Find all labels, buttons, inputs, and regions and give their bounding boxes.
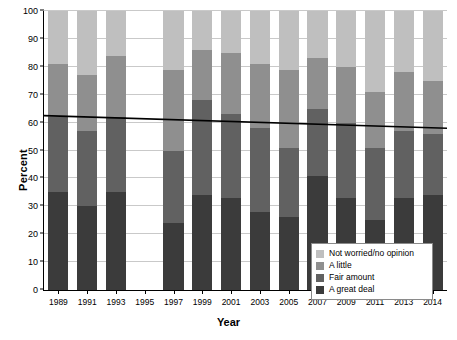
y-tick-mark <box>40 10 44 11</box>
bar-segment[interactable] <box>307 58 327 108</box>
bar-group[interactable] <box>163 11 183 290</box>
bar-group[interactable] <box>48 11 68 290</box>
bar-group[interactable] <box>106 11 126 290</box>
gridline <box>44 205 447 206</box>
x-tick-mark <box>202 290 203 294</box>
bar-group[interactable] <box>279 11 299 290</box>
bar-segment[interactable] <box>221 198 241 290</box>
y-tick-mark <box>40 65 44 66</box>
bar-segment[interactable] <box>48 11 68 64</box>
x-tick-mark <box>174 290 175 294</box>
bar-segment[interactable] <box>192 11 212 50</box>
bar-group[interactable] <box>250 11 270 290</box>
y-tick-label: 90 <box>28 34 38 44</box>
bar-segment[interactable] <box>221 11 241 53</box>
bar-segment[interactable] <box>365 92 385 148</box>
bar-segment[interactable] <box>279 70 299 148</box>
legend-swatch-icon <box>316 274 324 282</box>
bar-segment[interactable] <box>279 11 299 70</box>
legend-item[interactable]: Not worried/no opinion <box>316 248 428 259</box>
x-tick-mark <box>145 290 146 294</box>
bar-segment[interactable] <box>163 70 183 151</box>
bar-segment[interactable] <box>250 212 270 290</box>
x-tick-label: 1991 <box>78 297 97 307</box>
bar-segment[interactable] <box>250 128 270 212</box>
bar-segment[interactable] <box>163 11 183 70</box>
x-tick-label: 1999 <box>193 297 212 307</box>
x-tick-label: 1993 <box>106 297 125 307</box>
bar-segment[interactable] <box>163 151 183 224</box>
bar-group[interactable] <box>77 11 97 290</box>
bar-segment[interactable] <box>307 109 327 176</box>
bar-segment[interactable] <box>221 114 241 198</box>
bar-segment[interactable] <box>279 217 299 290</box>
bar-segment[interactable] <box>106 192 126 290</box>
y-tick-mark <box>40 205 44 206</box>
bar-segment[interactable] <box>250 64 270 128</box>
legend-item[interactable]: A great deal <box>316 284 428 295</box>
x-tick-mark <box>260 290 261 294</box>
x-tick-mark <box>58 290 59 294</box>
legend-item-label: A little <box>329 261 352 270</box>
y-tick-label: 100 <box>23 6 38 16</box>
bar-segment[interactable] <box>163 223 183 290</box>
bar-segment[interactable] <box>365 148 385 221</box>
y-tick-mark <box>40 121 44 122</box>
x-tick-label: 2001 <box>222 297 241 307</box>
x-tick-mark <box>289 290 290 294</box>
bar-segment[interactable] <box>192 50 212 100</box>
gridline <box>44 177 447 178</box>
bar-segment[interactable] <box>279 148 299 218</box>
gridline <box>44 38 447 39</box>
bar-segment[interactable] <box>48 192 68 290</box>
bar-segment[interactable] <box>77 206 97 290</box>
bar-segment[interactable] <box>365 11 385 92</box>
legend-item[interactable]: Fair amount <box>316 272 428 283</box>
gridline <box>44 150 447 151</box>
chart-legend: Not worried/no opinionA littleFair amoun… <box>311 243 433 300</box>
bar-segment[interactable] <box>307 11 327 58</box>
bar-group[interactable] <box>221 11 241 290</box>
y-tick-mark <box>40 149 44 150</box>
bar-segment[interactable] <box>106 117 126 192</box>
bar-segment[interactable] <box>394 11 414 72</box>
bar-segment[interactable] <box>423 81 443 134</box>
bar-segment[interactable] <box>106 56 126 117</box>
bar-segment[interactable] <box>48 117 68 192</box>
bar-segment[interactable] <box>192 100 212 195</box>
bar-segment[interactable] <box>336 11 356 67</box>
legend-swatch-icon <box>316 262 324 270</box>
y-tick-label: 0 <box>33 285 38 295</box>
bar-segment[interactable] <box>106 11 126 56</box>
gridline <box>44 10 447 11</box>
x-tick-mark <box>231 290 232 294</box>
legend-item[interactable]: A little <box>316 260 428 271</box>
bar-segment[interactable] <box>336 67 356 123</box>
bar-group[interactable] <box>192 11 212 290</box>
bar-segment[interactable] <box>77 11 97 75</box>
bar-segment[interactable] <box>336 123 356 198</box>
y-tick-label: 60 <box>28 118 38 128</box>
bar-segment[interactable] <box>250 11 270 64</box>
legend-swatch-icon <box>316 286 324 294</box>
x-tick-label: 1989 <box>49 297 68 307</box>
x-tick-label: 1997 <box>164 297 183 307</box>
y-tick-label: 10 <box>28 257 38 267</box>
y-tick-mark <box>40 289 44 290</box>
bar-segment[interactable] <box>423 134 443 195</box>
bar-segment[interactable] <box>221 53 241 114</box>
bar-segment[interactable] <box>77 131 97 206</box>
bar-segment[interactable] <box>77 75 97 131</box>
y-tick-label: 30 <box>28 201 38 211</box>
bar-segment[interactable] <box>423 11 443 81</box>
gridline <box>44 122 447 123</box>
y-tick-mark <box>40 261 44 262</box>
bar-segment[interactable] <box>192 195 212 290</box>
bar-segment[interactable] <box>48 64 68 117</box>
bar-segment[interactable] <box>394 72 414 131</box>
gridline <box>44 66 447 67</box>
legend-swatch-icon <box>316 250 324 258</box>
y-tick-label: 40 <box>28 173 38 183</box>
bar-segment[interactable] <box>394 131 414 198</box>
y-tick-mark <box>40 37 44 38</box>
